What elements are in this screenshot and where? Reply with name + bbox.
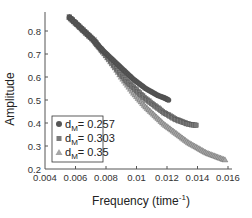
- y-tick-label: 0.2: [28, 164, 41, 175]
- y-tick-label: 0.4: [28, 118, 41, 129]
- x-tick-label: 0.006: [64, 172, 88, 183]
- circle-marker-icon: [56, 121, 62, 127]
- y-tick-label: 0.7: [28, 49, 41, 60]
- y-axis-title: Amplitude: [3, 72, 17, 126]
- x-tick-label: 0.01: [127, 172, 146, 183]
- amplitude-frequency-chart: 0.0040.0060.0080.010.0120.0140.016 0.20.…: [0, 0, 252, 218]
- x-tick-label: 0.008: [94, 172, 118, 183]
- legend: dM= 0.257 dM= 0.303 dM= 0.35: [52, 116, 115, 162]
- series-circle: [67, 15, 171, 103]
- y-tick-label: 0.5: [28, 95, 41, 106]
- x-tick-label: 0.014: [186, 172, 210, 183]
- square-marker-icon: [57, 136, 62, 141]
- x-axis-title: Frequency (time-1): [92, 193, 190, 208]
- y-tick-label: 0.8: [28, 26, 41, 37]
- y-tick-label: 0.3: [28, 141, 41, 152]
- y-tick-label: 0.6: [28, 72, 41, 83]
- x-tick-label: 0.012: [155, 172, 179, 183]
- x-tick-label: 0.016: [216, 172, 240, 183]
- data-point-square-marker: [194, 123, 199, 128]
- data-point-circle-marker: [166, 97, 171, 102]
